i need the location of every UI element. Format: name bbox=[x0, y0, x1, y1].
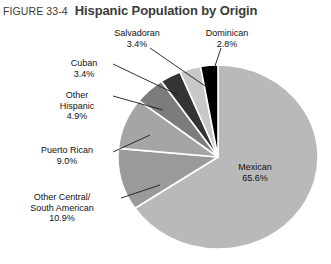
slice-label-puerto-rican-value: 9.0% bbox=[24, 156, 110, 167]
slice-label-other-hispanic-name1: Other bbox=[44, 90, 110, 101]
slice-label-other-cs-value: 10.9% bbox=[6, 213, 118, 224]
slice-label-other-cs-name1: Other Central/ bbox=[6, 192, 118, 203]
slice-label-other-hispanic: Other Hispanic 4.9% bbox=[44, 90, 110, 122]
slice-label-mexican-name: Mexican bbox=[224, 162, 286, 173]
slice-label-cuban-name: Cuban bbox=[58, 58, 110, 69]
slice-label-other-hispanic-name2: Hispanic bbox=[44, 101, 110, 112]
slice-label-mexican-value: 65.6% bbox=[224, 173, 286, 184]
slice-label-cuban-value: 3.4% bbox=[58, 69, 110, 80]
slice-label-salvadoran-value: 3.4% bbox=[104, 39, 170, 50]
slice-label-salvadoran: Salvadoran 3.4% bbox=[104, 28, 170, 49]
slice-label-other-cs-name2: South American bbox=[6, 203, 118, 214]
slice-label-dominican: Dominican 2.8% bbox=[196, 28, 258, 49]
slice-label-other-central-south-american: Other Central/ South American 10.9% bbox=[6, 192, 118, 224]
slice-label-puerto-rican-name: Puerto Rican bbox=[24, 145, 110, 156]
slice-label-other-hispanic-value: 4.9% bbox=[44, 111, 110, 122]
figure-container: FIGURE 33-4 Hispanic Population by Origi… bbox=[0, 0, 331, 264]
slice-label-salvadoran-name: Salvadoran bbox=[104, 28, 170, 39]
slice-label-dominican-name: Dominican bbox=[196, 28, 258, 39]
slice-label-puerto-rican: Puerto Rican 9.0% bbox=[24, 145, 110, 166]
slice-label-cuban: Cuban 3.4% bbox=[58, 58, 110, 79]
slice-label-mexican: Mexican 65.6% bbox=[224, 162, 286, 184]
pie-slices bbox=[118, 65, 318, 249]
slice-label-dominican-value: 2.8% bbox=[196, 39, 258, 50]
